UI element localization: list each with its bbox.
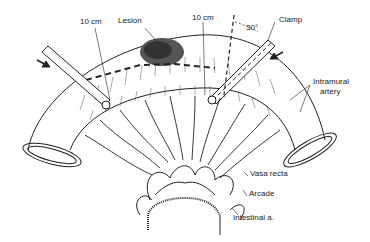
intestinal-artery-label: Intestinal a. [233, 214, 274, 222]
vasa-recta-label: Vasa recta [250, 170, 288, 178]
intestine-resection-diagram [0, 0, 370, 242]
lesion [140, 38, 184, 66]
intestinal-artery [148, 198, 220, 235]
left-clamp [42, 46, 110, 109]
right-clamp [208, 40, 275, 104]
intramural-artery-label-line1: Intramural [313, 78, 349, 86]
right-margin-label: 10 cm [192, 14, 214, 22]
clamp-label: Clamp [279, 16, 302, 24]
left-margin-label: 10 cm [80, 18, 102, 26]
lesion-label: Lesion [118, 17, 142, 25]
angle-label: 30° [246, 24, 258, 32]
arcade-label: Arcade [249, 190, 274, 198]
intramural-artery-label-line2: artery [320, 88, 340, 96]
arcades [137, 166, 244, 220]
